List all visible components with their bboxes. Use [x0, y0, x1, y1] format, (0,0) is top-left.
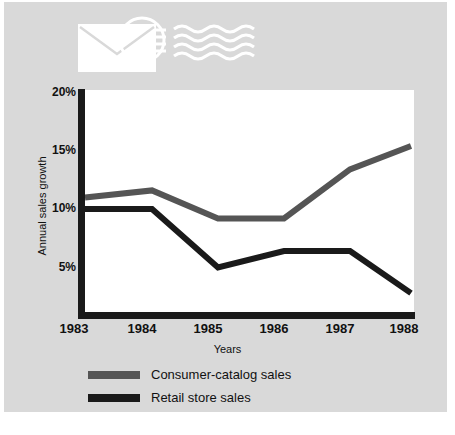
plot-area [84, 90, 414, 317]
legend-item-consumer-catalog-sales: Consumer-catalog sales [88, 365, 388, 385]
y-tick-label-10: 10% [52, 202, 76, 214]
x-axis-line [78, 312, 415, 319]
figure-container: 20% 15% 10% 5% Annual sales growth 1983 … [0, 0, 455, 435]
y-tick-label-5: 5% [59, 261, 76, 273]
y-axis-title: Annual sales growth [36, 136, 48, 276]
y-tick-label-15: 15% [52, 144, 76, 156]
legend-item-retail-store-sales: Retail store sales [88, 388, 388, 408]
envelope-with-speed-lines-icon [78, 16, 260, 78]
y-axis-tick-labels: 20% 15% 10% 5% Annual sales growth [20, 0, 76, 435]
x-tick-label-1985: 1985 [185, 322, 231, 336]
legend-swatch-retail-store-sales [88, 394, 140, 402]
x-tick-label-1983: 1983 [51, 322, 97, 336]
x-tick-label-1984: 1984 [119, 322, 165, 336]
x-tick-label-1987: 1987 [317, 322, 363, 336]
x-tick-label-1988: 1988 [381, 322, 427, 336]
legend-label-retail-store-sales: Retail store sales [151, 391, 251, 405]
legend-swatch-consumer-catalog-sales [88, 371, 140, 379]
series-line-retail-store-sales [85, 209, 411, 293]
chart-legend: Consumer-catalog sales Retail store sale… [88, 365, 388, 411]
x-tick-label-1986: 1986 [251, 322, 297, 336]
line-chart-canvas [84, 90, 414, 317]
legend-label-consumer-catalog-sales: Consumer-catalog sales [151, 368, 291, 382]
y-tick-label-20: 20% [52, 86, 76, 98]
y-axis-line [78, 89, 85, 319]
x-axis-title: Years [0, 343, 455, 355]
